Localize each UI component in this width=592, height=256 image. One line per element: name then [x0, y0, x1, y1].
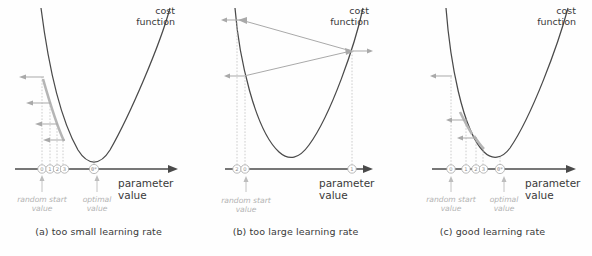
cost-function-label-line2: function: [136, 16, 175, 27]
random-start-label-line1: random start: [221, 196, 272, 205]
iterate-markers: 0 1 2 3 θ*: [447, 164, 505, 173]
marker-0-label: 0: [40, 166, 43, 172]
marker-3-label: 3: [482, 166, 485, 172]
cost-function-label-line2: function: [537, 16, 576, 27]
marker-2-label: 2: [56, 166, 59, 172]
iterate-markers: 0 1 2 3 θ*: [38, 164, 99, 173]
random-start-label-line1: random start: [17, 195, 68, 204]
optimal-pointer-head: [95, 175, 100, 181]
axis-label-line2: value: [118, 189, 147, 201]
cost-function-label-line1: cost: [556, 5, 576, 16]
axis-arrowhead: [168, 165, 178, 173]
random-start-pointer-head: [40, 175, 45, 181]
panel-too-large-learning-rate: 2 0 1 cost function parameter value rand…: [197, 0, 394, 256]
cost-curve: [446, 8, 568, 157]
random-start-label-line2: value: [32, 204, 53, 213]
random-start-pointer-head: [449, 176, 454, 182]
cost-function-label-line1: cost: [349, 5, 369, 16]
panel-a-plot: 0 1 2 3 θ* cost function parameter value…: [0, 0, 197, 226]
marker-0-label: 0: [449, 166, 452, 172]
optimal-label-line1: optimal: [490, 195, 520, 204]
random-start-label-line2: value: [236, 205, 257, 214]
marker-2-label: 2: [474, 166, 477, 172]
random-start-label-line1: random start: [426, 195, 477, 204]
marker-optimal-label: θ*: [497, 166, 503, 172]
optimal-label-line1: optimal: [83, 195, 113, 204]
cost-curve: [41, 8, 170, 162]
axis-arrowhead: [566, 165, 576, 173]
descent-highlight-1: [460, 112, 472, 134]
axis-label-line1: parameter: [118, 177, 174, 189]
random-start-label-line2: value: [441, 204, 462, 213]
marker-optimal-label: θ*: [91, 166, 97, 172]
optimal-pointer-head: [502, 176, 507, 182]
panel-good-learning-rate: 0 1 2 3 θ* cost function parameter value…: [394, 0, 591, 256]
panel-c-caption: (c) good learning rate: [394, 226, 591, 237]
axis-label-line1: parameter: [525, 177, 581, 189]
axis-arrowhead: [363, 165, 373, 173]
cost-curve: [235, 8, 363, 157]
optimal-label-line2: value: [87, 204, 108, 213]
marker-1-label: 1: [48, 166, 51, 172]
marker-3-label: 3: [63, 166, 66, 172]
axis-label-line2: value: [319, 189, 348, 201]
gradient-descent-figure: 0 1 2 3 θ* cost function parameter value…: [0, 0, 592, 256]
panel-a-caption: (a) too small learning rate: [0, 226, 197, 237]
marker-1-label: 1: [350, 166, 353, 172]
random-start-pointer-head: [244, 176, 249, 182]
optimal-label-line2: value: [494, 204, 515, 213]
panel-c-plot: 0 1 2 3 θ* cost function parameter value…: [394, 0, 592, 226]
panel-b-caption: (b) too large learning rate: [197, 226, 394, 237]
panel-too-small-learning-rate: 0 1 2 3 θ* cost function parameter value…: [0, 0, 197, 256]
panel-b-plot: 2 0 1 cost function parameter value rand…: [197, 0, 394, 226]
marker-1-label: 1: [464, 166, 467, 172]
marker-0-label: 0: [243, 166, 246, 172]
axis-label-line2: value: [525, 189, 554, 201]
axis-label-line1: parameter: [319, 177, 375, 189]
cost-function-label-line2: function: [330, 16, 369, 27]
marker-2-label: 2: [235, 166, 238, 172]
cost-function-label-line1: cost: [155, 5, 175, 16]
